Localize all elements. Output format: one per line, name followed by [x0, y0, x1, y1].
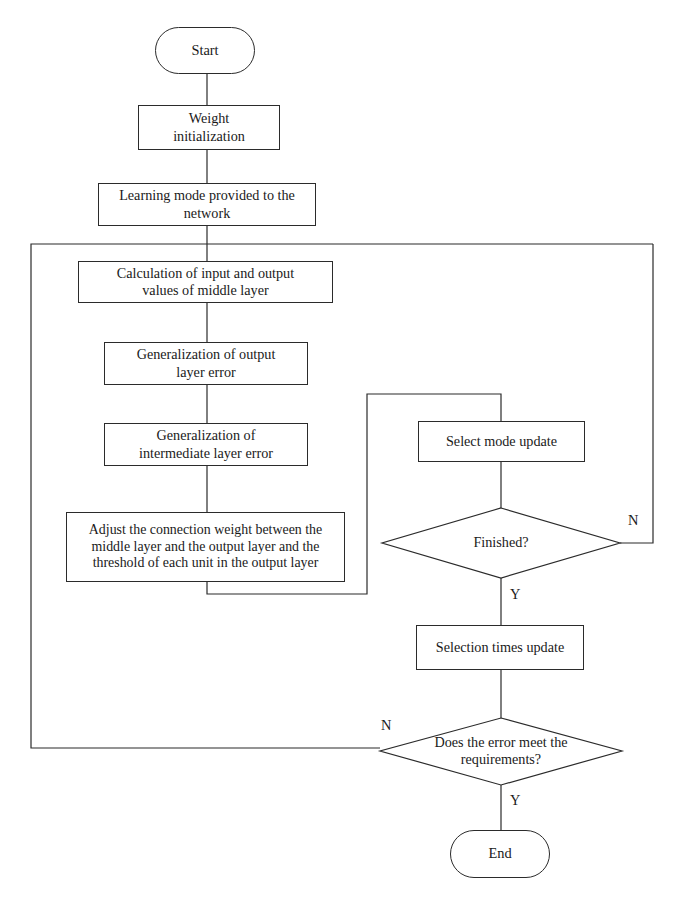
node-selection-times-update[interactable]: Selection times update [416, 625, 584, 670]
node-generalization-output-layer-error-label: Generalization of output layer error [137, 346, 276, 381]
node-generalization-intermediate-layer-error[interactable]: Generalization of intermediate layer err… [104, 423, 308, 466]
edge-label-error-no: N [381, 717, 391, 734]
node-error-check-decision[interactable] [380, 718, 622, 785]
node-start-label: Start [191, 42, 218, 60]
node-selection-times-update-label: Selection times update [436, 639, 564, 656]
node-weight-initialization-label: Weight initialization [173, 110, 245, 145]
edge-label-finished-yes: Y [510, 586, 520, 603]
node-calculation[interactable]: Calculation of input and output values o… [78, 261, 333, 303]
node-select-mode-update[interactable]: Select mode update [418, 421, 585, 462]
loop-boundary-outline [31, 244, 653, 748]
edge-label-finished-no: N [628, 512, 638, 529]
node-adjust-connection-weight-label: Adjust the connection weight between the… [89, 522, 322, 573]
node-generalization-output-layer-error[interactable]: Generalization of output layer error [104, 342, 308, 385]
edge-label-error-yes: Y [510, 792, 520, 809]
edge-finished-no-loop [620, 244, 653, 543]
node-end-label: End [488, 845, 511, 863]
flowchart-canvas: Start Weight initialization Learning mod… [0, 0, 673, 900]
node-adjust-connection-weight[interactable]: Adjust the connection weight between the… [66, 512, 345, 582]
node-learning-mode[interactable]: Learning mode provided to the network [98, 183, 316, 226]
node-calculation-label: Calculation of input and output values o… [117, 265, 294, 300]
node-select-mode-update-label: Select mode update [446, 433, 557, 450]
node-weight-initialization[interactable]: Weight initialization [138, 105, 280, 150]
node-learning-mode-label: Learning mode provided to the network [119, 187, 295, 222]
node-finished-decision[interactable] [382, 508, 620, 578]
node-start[interactable]: Start [155, 27, 255, 74]
node-end[interactable]: End [450, 830, 550, 878]
node-generalization-intermediate-layer-error-label: Generalization of intermediate layer err… [139, 427, 273, 462]
